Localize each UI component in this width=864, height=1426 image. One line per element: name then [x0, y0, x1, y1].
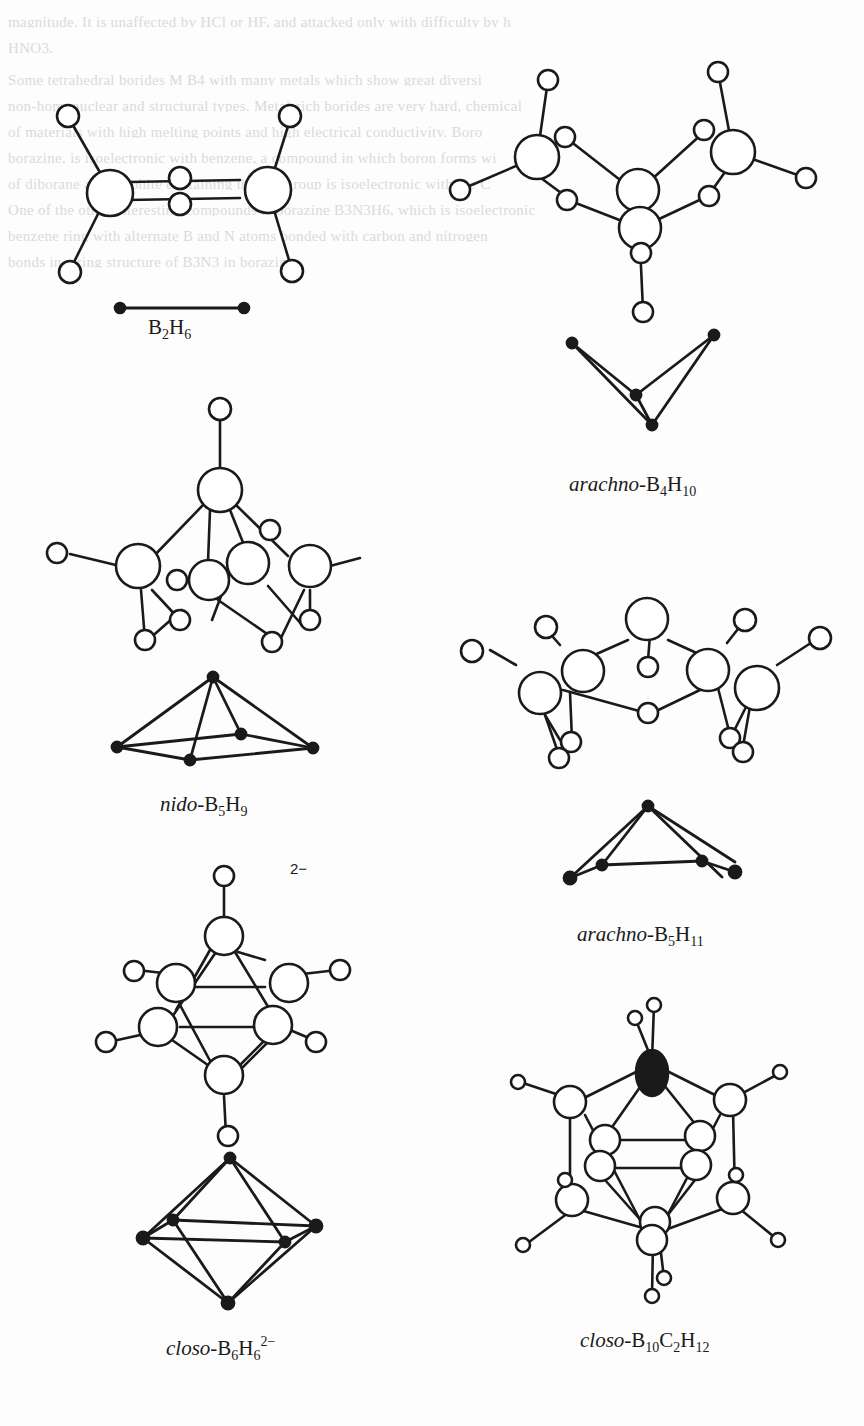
label-closo-b6h6: closo-B6H62−: [166, 1336, 275, 1361]
element-symbol: B: [631, 1328, 645, 1352]
structure-prefix: closo-: [580, 1328, 631, 1352]
element-symbol: H: [238, 1336, 253, 1360]
subscript: 5: [668, 934, 675, 949]
structure-prefix: arachno-: [577, 922, 654, 946]
molecule-arachno-b4h10-skeleton: [567, 330, 719, 430]
molecule-closo-b6h6-skeleton: [137, 1153, 322, 1309]
subscript: 9: [241, 804, 248, 819]
molecule-b2h6-skeleton: [115, 303, 249, 313]
subscript: 10: [645, 1340, 659, 1355]
subscript: 4: [660, 484, 667, 499]
molecule-arachno-b5h11-ball-stick: [461, 598, 831, 768]
element-symbol: C: [659, 1328, 673, 1352]
structure-prefix: arachno-: [569, 472, 646, 496]
structure-prefix: nido-: [160, 792, 204, 816]
molecule-b2h6-ball-stick: [57, 105, 303, 283]
charge-superscript: 2−: [261, 1334, 276, 1349]
structure-prefix: closo-: [166, 1336, 217, 1360]
borane-structures-figure: [0, 0, 864, 1426]
subscript: 6: [184, 327, 191, 342]
molecule-arachno-b5h11-skeleton: [564, 801, 741, 884]
element-symbol: H: [675, 922, 690, 946]
subscript: 2: [162, 327, 169, 342]
molecule-closo-b6h6-ball-stick: [96, 866, 350, 1146]
subscript: 12: [696, 1340, 710, 1355]
ion-charge-b6h6: 2−: [290, 860, 307, 877]
label-nido-b5h9: nido-B5H9: [160, 792, 248, 817]
label-closo-b10c2h12: closo-B10C2H12: [580, 1328, 710, 1353]
element-symbol: B: [646, 472, 660, 496]
label-b2h6: B2H6: [148, 315, 191, 340]
molecule-closo-b10c2h12-ball-stick: [511, 998, 787, 1303]
element-symbol: H: [169, 315, 184, 339]
element-symbol: H: [667, 472, 682, 496]
element-symbol: B: [204, 792, 218, 816]
element-symbol: H: [680, 1328, 695, 1352]
label-arachno-b4h10: arachno-B4H10: [569, 472, 696, 497]
scanned-page: magnitude. It is unaffected by HCl or HF…: [0, 0, 864, 1426]
label-arachno-b5h11: arachno-B5H11: [577, 922, 704, 947]
subscript: 11: [690, 934, 703, 949]
element-symbol: B: [654, 922, 668, 946]
element-symbol: H: [225, 792, 240, 816]
subscript: 6: [254, 1348, 261, 1363]
subscript: 10: [682, 484, 696, 499]
molecule-nido-b5h9-ball-stick: [47, 398, 360, 652]
element-symbol: B: [148, 315, 162, 339]
molecule-arachno-b4h10-ball-stick: [450, 62, 816, 322]
element-symbol: B: [217, 1336, 231, 1360]
molecule-nido-b5h9-skeleton: [112, 672, 318, 765]
